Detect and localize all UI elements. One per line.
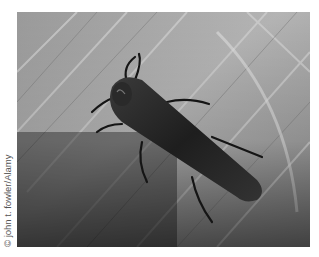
beetle-photo	[17, 12, 310, 247]
photo-credit: © john t. fowler/Alamy	[1, 107, 15, 247]
